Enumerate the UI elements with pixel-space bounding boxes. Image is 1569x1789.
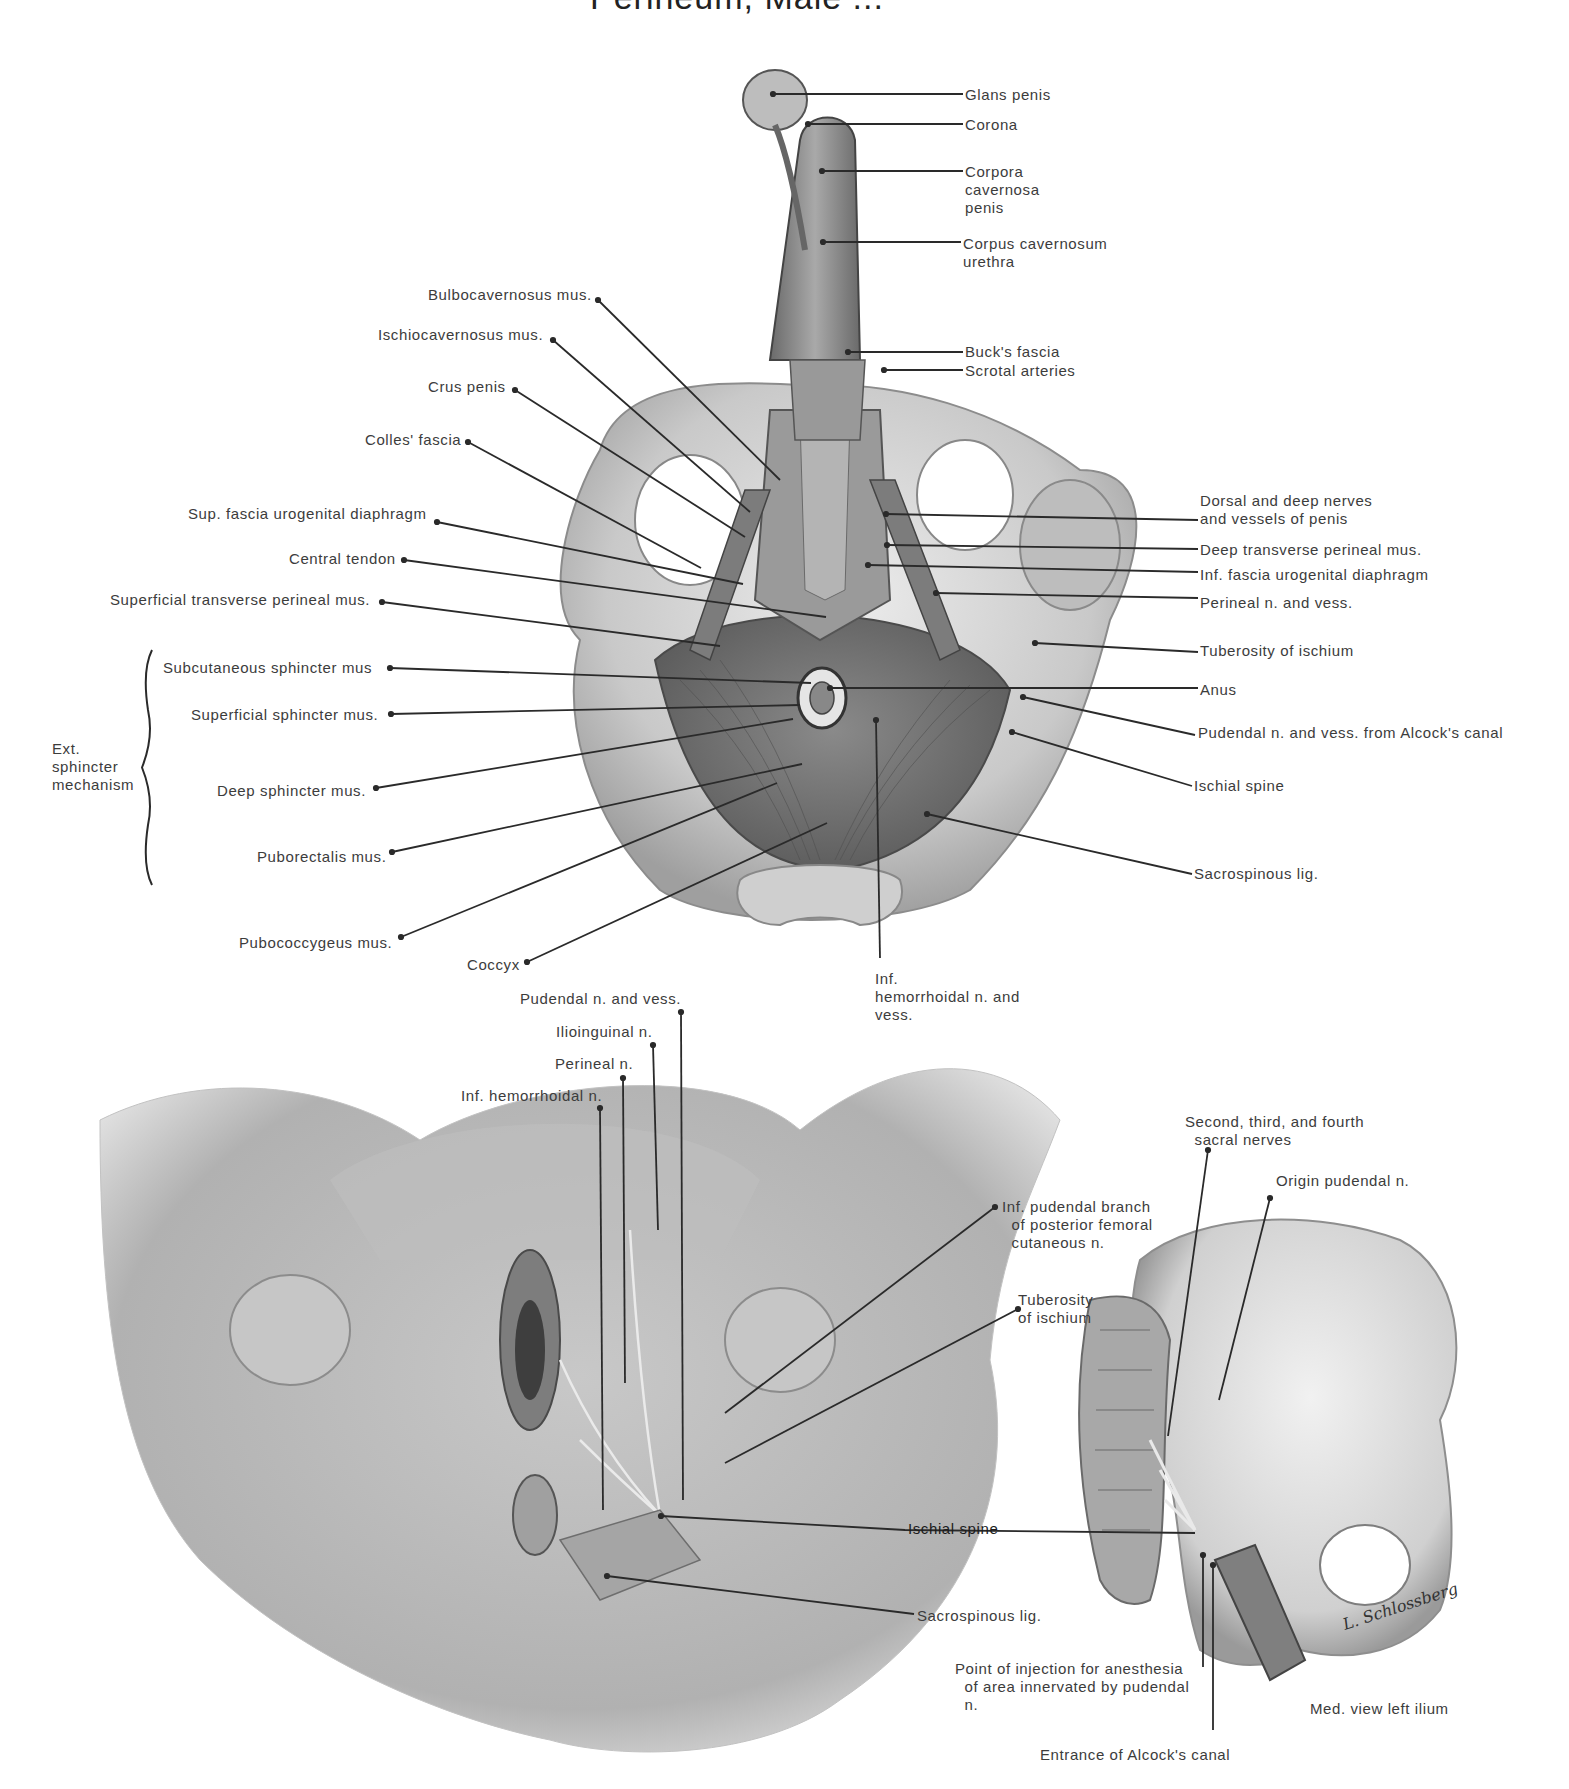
leader-anchor-dot xyxy=(884,512,888,516)
label-sacrospinous-lig: Sacrospinous lig. xyxy=(1194,865,1318,883)
label-perineal-n-and-vess: Perineal n. and vess. xyxy=(1200,594,1353,612)
label-med-view-left-ilium: Med. view left ilium xyxy=(1310,1700,1449,1718)
label-ilioinguinal-n: Ilioinguinal n. xyxy=(556,1023,653,1041)
leader-anchor-dot xyxy=(1268,1196,1272,1200)
leader-anchor-dot xyxy=(399,935,403,939)
label-point-of-injection-for-anesthesia-of-area-innervated-by-pudendal-n: Point of injection for anesthesia of are… xyxy=(955,1660,1189,1714)
label-pudendal-n-and-vess-from-alcock-s-canal: Pudendal n. and vess. from Alcock's cana… xyxy=(1198,724,1503,742)
leader-anchor-dot xyxy=(866,563,870,567)
label-colles-fascia: Colles' fascia xyxy=(365,431,461,449)
label-second-third-and-fourth-sacral-nerves: Second, third, and fourth sacral nerves xyxy=(1185,1113,1364,1149)
label-ischial-spine: Ischial spine xyxy=(1194,777,1284,795)
illustration-canvas: L. Schlossberg xyxy=(0,0,1569,1789)
label-ischial-spine: Ischial spine xyxy=(908,1520,998,1538)
label-coccyx: Coccyx xyxy=(467,956,520,974)
leader-anchor-dot xyxy=(390,850,394,854)
label-crus-penis: Crus penis xyxy=(428,378,506,396)
label-anus: Anus xyxy=(1200,681,1237,699)
label-corpora-cavernosa-penis: Corpora cavernosa penis xyxy=(965,163,1040,217)
label-glans-penis: Glans penis xyxy=(965,86,1051,104)
leader-anchor-dot xyxy=(1033,641,1037,645)
label-superficial-sphincter-mus: Superficial sphincter mus. xyxy=(191,706,378,724)
sphincter-bracket xyxy=(142,650,152,885)
label-sacrospinous-lig: Sacrospinous lig. xyxy=(917,1607,1041,1625)
label-pubococcygeus-mus: Pubococcygeus mus. xyxy=(239,934,392,952)
leader-anchor-dot xyxy=(513,388,517,392)
leader-anchor-dot xyxy=(551,338,555,342)
label-deep-sphincter-mus: Deep sphincter mus. xyxy=(217,782,366,800)
leader-anchor-dot xyxy=(389,712,393,716)
label-scrotal-arteries: Scrotal arteries xyxy=(965,362,1075,380)
leader-anchor-dot xyxy=(934,591,938,595)
label-sup-fascia-urogenital-diaphragm: Sup. fascia urogenital diaphragm xyxy=(188,505,427,523)
label-entrance-of-alcock-s-canal: Entrance of Alcock's canal xyxy=(1040,1746,1230,1764)
label-inf-pudendal-branch-of-posterior-femoral-cutaneous-n: Inf. pudendal branch of posterior femora… xyxy=(1002,1198,1153,1252)
leader-anchor-dot xyxy=(1010,730,1014,734)
label-inf-fascia-urogenital-diaphragm: Inf. fascia urogenital diaphragm xyxy=(1200,566,1429,584)
leader-anchor-dot xyxy=(374,786,378,790)
leader-anchor-dot xyxy=(925,812,929,816)
ext-sphincter-mechanism-label: Ext. sphincter mechanism xyxy=(52,740,134,794)
leader-anchor-dot xyxy=(846,350,850,354)
leader-anchor-dot xyxy=(828,686,832,690)
label-bulbocavernosus-mus: Bulbocavernosus mus. xyxy=(428,286,592,304)
leader-anchor-dot xyxy=(1201,1553,1205,1557)
leader-anchor-dot xyxy=(874,718,878,722)
leader-anchor-dot xyxy=(1211,1563,1215,1567)
leader-anchor-dot xyxy=(821,240,825,244)
leader-anchor-dot xyxy=(885,543,889,547)
label-deep-transverse-perineal-mus: Deep transverse perineal mus. xyxy=(1200,541,1422,559)
leader-anchor-dot xyxy=(806,122,810,126)
bottom-left-illustration xyxy=(100,1069,1060,1752)
leader-anchor-dot xyxy=(820,169,824,173)
label-inf-hemorrhoidal-n: Inf. hemorrhoidal n. xyxy=(461,1087,602,1105)
leader-anchor-dot xyxy=(435,520,439,524)
leader-anchor-dot xyxy=(525,960,529,964)
anatomy-plate: Perineum, Male ... xyxy=(0,0,1569,1789)
label-corpus-cavernosum-urethra: Corpus cavernosum urethra xyxy=(963,235,1107,271)
leader-anchor-dot xyxy=(596,298,600,302)
label-perineal-n: Perineal n. xyxy=(555,1055,633,1073)
leader-anchor-dot xyxy=(621,1076,625,1080)
label-puborectalis-mus: Puborectalis mus. xyxy=(257,848,386,866)
leader-anchor-dot xyxy=(993,1205,997,1209)
label-origin-pudendal-n: Origin pudendal n. xyxy=(1276,1172,1409,1190)
label-tuberosity-of-ischium: Tuberosity of ischium xyxy=(1200,642,1354,660)
leader-anchor-dot xyxy=(659,1514,663,1518)
label-central-tendon: Central tendon xyxy=(289,550,396,568)
leader-anchor-dot xyxy=(1021,695,1025,699)
leader-anchor-dot xyxy=(388,666,392,670)
leader-anchor-dot xyxy=(771,92,775,96)
bottom-right-illustration: L. Schlossberg xyxy=(1079,1220,1460,1680)
label-pudendal-n-and-vess: Pudendal n. and vess. xyxy=(520,990,681,1008)
leader-anchor-dot xyxy=(605,1574,609,1578)
label-superficial-transverse-perineal-mus: Superficial transverse perineal mus. xyxy=(110,591,370,609)
leader-anchor-dot xyxy=(651,1043,655,1047)
label-ischiocavernosus-mus: Ischiocavernosus mus. xyxy=(378,326,543,344)
label-inf-hemorrhoidal-n-and-vess: Inf. hemorrhoidal n. and vess. xyxy=(875,970,1020,1024)
leader-anchor-dot xyxy=(402,558,406,562)
leader-anchor-dot xyxy=(466,440,470,444)
label-dorsal-and-deep-nerves-and-vessels-of-penis: Dorsal and deep nerves and vessels of pe… xyxy=(1200,492,1372,528)
leader-anchor-dot xyxy=(380,600,384,604)
leader-anchor-dot xyxy=(598,1106,602,1110)
leader-anchor-dot xyxy=(882,368,886,372)
label-subcutaneous-sphincter-mus: Subcutaneous sphincter mus xyxy=(163,659,372,677)
label-tuberosity-of-ischium: Tuberosity of ischium xyxy=(1018,1291,1093,1327)
label-buck-s-fascia: Buck's fascia xyxy=(965,343,1060,361)
leader-anchor-dot xyxy=(679,1010,683,1014)
label-corona: Corona xyxy=(965,116,1018,134)
